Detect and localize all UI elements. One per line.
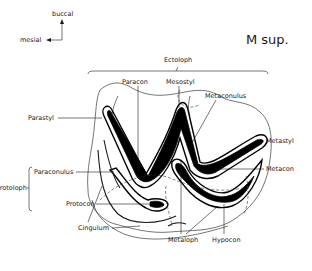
diagram-title: M sup. [246, 32, 289, 47]
label-paraconulus: Paraconulus [34, 168, 74, 176]
label-paracon: Paracon [122, 78, 148, 86]
label-ectoloph: Ectoloph [164, 56, 192, 64]
orientation-indicator: buccal mesial [20, 10, 73, 44]
label-metacon: Metacon [266, 165, 294, 173]
buccal-label: buccal [52, 10, 73, 18]
ectoloph-bracket: Ectoloph [88, 56, 268, 74]
molar-diagram: buccal mesial M sup. Ectoloph Paracon Me… [0, 0, 312, 271]
mesial-label: mesial [20, 36, 42, 44]
label-mesostyl: Mesostyl [166, 78, 195, 86]
label-metaloph: Metaloph [168, 236, 198, 244]
label-cingulum: Cingulum [78, 224, 109, 232]
label-metastyl: Metastyl [266, 137, 294, 145]
label-protoloph: Protoloph [0, 184, 27, 192]
label-hypocon: Hypocon [212, 236, 241, 244]
label-metaconulus: Metaconulus [205, 92, 247, 100]
label-parastyl: Parastyl [28, 114, 54, 122]
label-protocon: Protocon [66, 200, 95, 208]
protoloph-bracket [27, 167, 32, 211]
